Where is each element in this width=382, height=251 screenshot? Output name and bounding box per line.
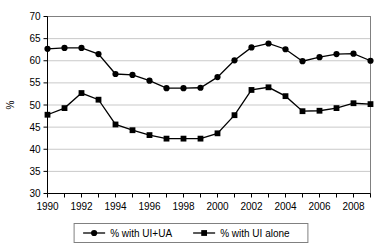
data-point-marker bbox=[316, 54, 322, 60]
data-point-marker bbox=[78, 45, 84, 51]
data-point-marker bbox=[367, 58, 373, 64]
y-axis-tick-label: 30 bbox=[29, 188, 41, 199]
data-point-marker bbox=[317, 108, 323, 114]
line-chart: 303540455055606570%199019921994199619982… bbox=[0, 0, 382, 251]
data-point-marker bbox=[79, 90, 85, 96]
y-axis-tick-label: 65 bbox=[29, 33, 41, 44]
x-axis-tick-label: 1990 bbox=[36, 201, 59, 212]
data-point-marker bbox=[215, 130, 221, 136]
data-point-marker bbox=[282, 46, 288, 52]
x-axis-tick-label: 2008 bbox=[342, 201, 365, 212]
x-axis-tick-label: 1998 bbox=[172, 201, 195, 212]
data-point-marker bbox=[249, 87, 255, 93]
y-axis-tick-label: 40 bbox=[29, 144, 41, 155]
series-1 bbox=[44, 40, 373, 91]
data-point-marker bbox=[248, 44, 254, 50]
x-axis-tick-label: 2002 bbox=[240, 201, 263, 212]
data-point-marker bbox=[96, 97, 102, 103]
data-point-marker bbox=[163, 85, 169, 91]
data-point-marker bbox=[164, 136, 170, 142]
data-point-marker bbox=[351, 100, 357, 106]
data-point-marker bbox=[129, 72, 135, 78]
y-axis-tick-label: 50 bbox=[29, 100, 41, 111]
data-point-marker bbox=[283, 93, 289, 99]
data-point-marker bbox=[180, 85, 186, 91]
y-axis: 303540455055606570 bbox=[29, 11, 47, 199]
data-point-marker bbox=[44, 46, 50, 52]
data-point-marker bbox=[62, 105, 68, 111]
y-axis-tick-label: 55 bbox=[29, 77, 41, 88]
data-point-marker bbox=[61, 45, 67, 51]
data-point-marker bbox=[197, 85, 203, 91]
x-axis-tick-label: 1996 bbox=[138, 201, 161, 212]
x-axis-tick-label: 2000 bbox=[206, 201, 229, 212]
data-point-marker bbox=[299, 58, 305, 64]
data-point-marker bbox=[231, 57, 237, 63]
data-point-marker bbox=[181, 136, 187, 142]
data-point-marker bbox=[95, 51, 101, 57]
data-point-marker bbox=[146, 78, 152, 84]
data-point-marker bbox=[214, 74, 220, 80]
data-point-marker bbox=[334, 105, 340, 111]
y-axis-tick-label: 70 bbox=[29, 11, 41, 22]
data-point-marker bbox=[130, 127, 136, 133]
data-point-marker bbox=[300, 108, 306, 114]
data-point-marker bbox=[350, 51, 356, 57]
data-point-marker bbox=[232, 112, 238, 118]
y-axis-tick-label: 35 bbox=[29, 166, 41, 177]
data-point-marker bbox=[45, 112, 51, 118]
data-point-marker bbox=[113, 122, 119, 128]
x-axis-tick-label: 1992 bbox=[70, 201, 93, 212]
series-2 bbox=[45, 84, 374, 141]
x-axis-tick-label: 1994 bbox=[104, 201, 127, 212]
y-axis-tick-label: 60 bbox=[29, 55, 41, 66]
chart-container: 303540455055606570%199019921994199619982… bbox=[0, 0, 382, 251]
y-axis-tick-label: 45 bbox=[29, 122, 41, 133]
data-point-marker bbox=[147, 132, 153, 138]
x-axis-tick-label: 2006 bbox=[308, 201, 331, 212]
legend-item-label: % with UI+UA bbox=[110, 228, 172, 239]
legend-marker-square bbox=[201, 230, 207, 236]
series-line bbox=[48, 43, 371, 88]
data-point-marker bbox=[198, 136, 204, 142]
legend-marker-circle bbox=[91, 230, 97, 236]
data-point-marker bbox=[368, 101, 374, 107]
gridlines bbox=[48, 17, 371, 172]
x-axis: 1990199219941996199820002002200420062008 bbox=[36, 194, 370, 212]
data-point-marker bbox=[266, 84, 272, 90]
legend-item-label: % with UI alone bbox=[220, 228, 290, 239]
data-point-marker bbox=[112, 71, 118, 77]
x-axis-tick-label: 2004 bbox=[274, 201, 297, 212]
data-point-marker bbox=[333, 51, 339, 57]
data-point-marker bbox=[265, 40, 271, 46]
y-axis-title: % bbox=[5, 100, 16, 109]
chart-legend: % with UI+UA% with UI alone bbox=[74, 224, 308, 243]
